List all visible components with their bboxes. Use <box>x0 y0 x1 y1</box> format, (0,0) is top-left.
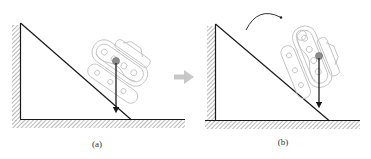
right-arrow-icon <box>174 70 194 84</box>
ground-hatch <box>205 121 360 129</box>
robot-sketch <box>78 26 162 106</box>
ground-hatch <box>12 120 185 128</box>
slope-line <box>21 23 132 120</box>
wall-hatch <box>12 25 20 121</box>
panel-b <box>205 14 360 129</box>
rotation-arrow-icon <box>246 14 280 30</box>
robot-sketch <box>274 18 348 101</box>
slope-line <box>216 24 330 121</box>
panel-a <box>12 23 185 128</box>
caption-a: (a) <box>92 139 102 149</box>
wall-hatch <box>207 26 215 122</box>
caption-b: (b) <box>278 137 289 147</box>
diagram-canvas <box>0 0 371 159</box>
